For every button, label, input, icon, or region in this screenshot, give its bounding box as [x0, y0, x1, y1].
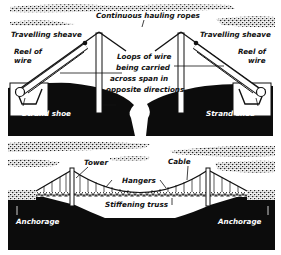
- label-reel-of-wire-right-2: wire: [248, 56, 266, 65]
- leader-line: [142, 20, 144, 27]
- label-anchorage-right: Anchorage: [217, 217, 262, 226]
- top-panel-cable-spinning: Continuous hauling ropes Travelling shea…: [8, 4, 275, 136]
- label-cable: Cable: [168, 157, 191, 166]
- cloud-shading: [8, 141, 150, 152]
- label-strand-shoe-right: Strand shoe: [206, 109, 255, 118]
- leader-line: [160, 180, 166, 188]
- cloud-shading: [170, 146, 275, 157]
- suspension-bridge-diagram: Continuous hauling ropes Travelling shea…: [0, 0, 281, 255]
- label-reel-of-wire-right-1: Reel of: [238, 47, 267, 56]
- bottom-panel-completed-bridge: Tower Cable Hangers Stiffening truss Anc…: [8, 141, 275, 250]
- anchorage-block-left: [8, 190, 36, 200]
- bridge-tower-left: [70, 168, 74, 206]
- leader-line: [187, 166, 188, 180]
- label-reel-of-wire-left-2: wire: [14, 56, 32, 65]
- cloud-shading: [10, 20, 75, 26]
- anchorage-block-right: [247, 190, 275, 200]
- label-loops-4: opposite directions: [106, 85, 185, 94]
- label-hangers: Hangers: [122, 176, 157, 185]
- label-loops-2: being carried: [116, 63, 171, 72]
- label-travelling-sheave-left: Travelling sheave: [11, 30, 82, 39]
- bridge-tower-right: [206, 168, 210, 206]
- label-travelling-sheave-right: Travelling sheave: [200, 30, 271, 39]
- label-loops-1: Loops of wire: [117, 52, 172, 61]
- travelling-sheave-right: [194, 41, 199, 46]
- label-strand-shoe-left: Strand shoe: [22, 109, 71, 118]
- reel-of-wire-right: [257, 88, 266, 97]
- label-reel-of-wire-left-1: Reel of: [14, 47, 43, 56]
- tower-right: [178, 33, 184, 113]
- cloud-shading: [216, 16, 275, 27]
- label-anchorage-left: Anchorage: [15, 217, 60, 226]
- label-loops-3: across span in: [110, 74, 168, 83]
- cloud-shading: [8, 159, 60, 167]
- cloud-shading: [215, 161, 275, 173]
- hauling-rope-left: [99, 32, 126, 51]
- travelling-sheave-left: [83, 41, 88, 46]
- hauling-rope-right: [155, 32, 181, 51]
- reel-of-wire-left: [16, 88, 25, 97]
- label-stiffening-truss: Stiffening truss: [105, 200, 169, 209]
- cloud-shading: [110, 156, 150, 160]
- leader-line: [106, 180, 112, 187]
- label-tower: Tower: [84, 158, 108, 167]
- label-continuous-hauling-ropes: Continuous hauling ropes: [96, 11, 201, 20]
